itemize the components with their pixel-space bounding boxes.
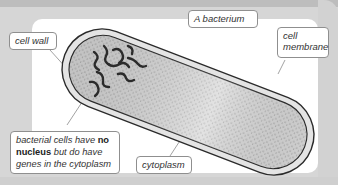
title-label: A bacterium [188,10,258,28]
nucleus-note-bold-no: no [98,135,109,145]
cytoplasm-label: cytoplasm [136,156,192,174]
cell-membrane-text-line2: membrane [283,41,328,52]
cell-membrane-text-line1: cell [283,30,297,41]
nucleus-note-label: bacterial cells have no nucleus but do h… [10,131,120,174]
nucleus-note-text-2: but do have [51,147,102,157]
title-text: A bacterium [194,13,244,24]
cell-wall-text: cell wall [15,35,48,46]
cell-wall-label: cell wall [9,32,57,50]
cell-membrane-leader [278,60,285,74]
cell-membrane-label: cell membrane [277,27,329,58]
nucleus-note-bold-nucleus: nucleus [16,147,51,157]
cytoplasm-text: cytoplasm [142,159,185,170]
nucleus-note-text-1: bacterial cells have [16,135,98,145]
nucleus-note-text-3: genes in the cytoplasm [16,159,111,169]
